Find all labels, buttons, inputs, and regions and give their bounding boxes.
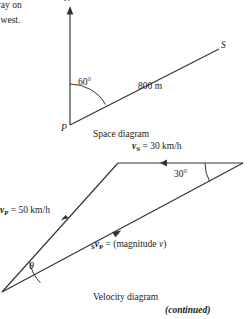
vp-value: = 50 km/h (8, 205, 50, 215)
velocity-diagram-caption: Velocity diagram (93, 293, 158, 303)
angle-30-arc (205, 163, 210, 182)
svp-value: = (magnitude (103, 239, 159, 249)
body-text-line-2: e west. (0, 13, 22, 28)
velocity-diagram-group (2, 159, 243, 292)
figure-page: way on e west. N 60° 800 m P S Space dia… (0, 0, 249, 319)
north-arrowhead (67, 6, 74, 15)
distance-800m-label: 800 m (138, 82, 162, 92)
theta-angle-label: θ (29, 261, 34, 271)
north-label: N (64, 0, 71, 3)
body-text-block: way on e west. (0, 0, 22, 28)
body-text-line-1: way on (0, 0, 22, 13)
space-diagram-caption: Space diagram (93, 130, 149, 140)
svp-vector-line (2, 163, 243, 292)
svp-vector-label: SvP = (magnitude v) (91, 240, 166, 250)
svp-arrowhead (112, 230, 121, 237)
continued-note: (continued) (165, 306, 210, 316)
angle-30-label: 30° (174, 170, 187, 180)
svp-close-paren: ) (163, 239, 166, 249)
diagram-canvas (0, 0, 249, 319)
vs-value: = 30 km/h (140, 141, 182, 151)
space-diagram-group (67, 6, 219, 125)
angle-60-label: 60° (78, 78, 91, 88)
vp-vector-line (2, 163, 118, 292)
vs-vector-label: vS = 30 km/h (132, 142, 182, 152)
point-p-label: P (61, 124, 67, 134)
vp-vector-label: vP = 50 km/h (0, 206, 50, 216)
point-s-label: S (221, 41, 226, 51)
vs-arrowhead (160, 159, 167, 166)
